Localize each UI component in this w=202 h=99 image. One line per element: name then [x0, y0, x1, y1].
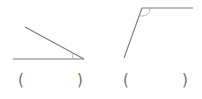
angle-2-ray-slanted — [124, 8, 142, 58]
answer-1-open-paren: ( — [18, 73, 24, 88]
angle-1-acute — [13, 27, 84, 59]
angle-2-obtuse — [124, 8, 193, 58]
answer-2-close-paren: ) — [182, 73, 188, 88]
answer-2-open-paren: ( — [123, 73, 129, 88]
angle-1-arc — [72, 53, 73, 60]
answer-1-close-paren: ) — [77, 73, 83, 88]
angle-1-ray-slanted — [25, 27, 84, 59]
angle-diagram — [0, 0, 202, 99]
